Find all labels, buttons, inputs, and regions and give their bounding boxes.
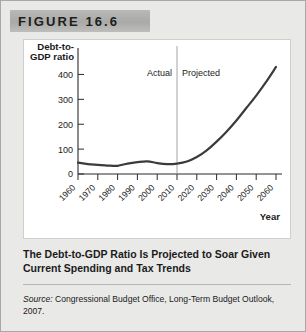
caption-divider bbox=[23, 284, 291, 285]
x-tick-label: 1980 bbox=[96, 182, 117, 203]
y-tick-label: 0 bbox=[68, 169, 73, 179]
x-tick-label: 1960 bbox=[57, 182, 78, 203]
y-tick-label: 400 bbox=[58, 70, 73, 80]
x-tick-label: 2030 bbox=[195, 182, 216, 203]
projected-label: Projected bbox=[182, 68, 220, 78]
figure-number-label: FIGURE 16.6 bbox=[18, 14, 119, 29]
source-text: Congressional Budget Office, Long-Term B… bbox=[23, 294, 274, 316]
line-chart: 0100200300400Debt-to-GDP ratio1960197019… bbox=[24, 40, 290, 238]
figure-caption: The Debt-to-GDP Ratio Is Projected to So… bbox=[23, 247, 291, 275]
x-axis-label: Year bbox=[260, 211, 281, 222]
figure-number-banner: FIGURE 16.6 bbox=[10, 10, 150, 32]
x-tick-label: 2000 bbox=[136, 182, 157, 203]
y-axis-label: GDP ratio bbox=[30, 51, 74, 62]
actual-label: Actual bbox=[147, 68, 172, 78]
x-tick-label: 2020 bbox=[176, 182, 197, 203]
y-tick-label: 200 bbox=[58, 120, 73, 130]
y-tick-label: 100 bbox=[58, 145, 73, 155]
figure-container: FIGURE 16.6 0100200300400Debt-to-GDP rat… bbox=[0, 0, 306, 332]
x-tick-label: 2010 bbox=[156, 182, 177, 203]
x-tick-label: 2040 bbox=[215, 182, 236, 203]
chart-panel: 0100200300400Debt-to-GDP ratio1960197019… bbox=[23, 39, 291, 239]
x-tick-label: 1970 bbox=[77, 182, 98, 203]
x-tick-label: 1990 bbox=[116, 182, 137, 203]
x-tick-label: 2060 bbox=[255, 182, 276, 203]
y-tick-label: 300 bbox=[58, 95, 73, 105]
x-tick-label: 2050 bbox=[235, 182, 256, 203]
figure-source: Source: Congressional Budget Office, Lon… bbox=[23, 293, 291, 318]
source-prefix: Source: bbox=[23, 294, 53, 304]
